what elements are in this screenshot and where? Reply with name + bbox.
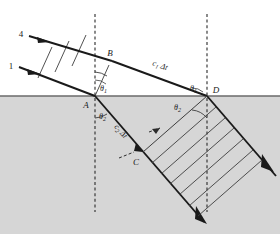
label-point-b: B [107, 48, 113, 58]
label-point-a: A [82, 100, 89, 110]
label-point-d: D [212, 85, 220, 95]
medium-2-region [0, 96, 280, 234]
label-point-c: C [133, 157, 140, 167]
refraction-diagram-figure: 4 1 B A C D θ1 θ1 θ2 θ2 c1 Δt c2 Δt [0, 0, 280, 234]
medium-1-region [0, 0, 280, 96]
label-ray-4: 4 [19, 29, 24, 39]
diagram-canvas: 4 1 B A C D θ1 θ1 θ2 θ2 c1 Δt c2 Δt [0, 0, 280, 234]
label-ray-1: 1 [9, 61, 14, 71]
